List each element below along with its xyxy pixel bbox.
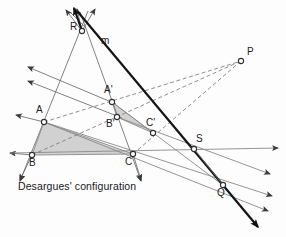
- ray-C-downward: [133, 154, 141, 180]
- point-label-A-prime: A': [104, 85, 113, 95]
- node-C-prime: [150, 130, 155, 135]
- point-label-C-prime: C': [146, 118, 155, 128]
- dashed-lines-to-P: [32, 61, 241, 155]
- node-P: [238, 58, 243, 63]
- node-A-prime: [109, 99, 114, 104]
- line-B-prime-C-prime-S: [117, 117, 270, 174]
- point-label-R: R: [70, 22, 77, 32]
- node-R: [79, 28, 84, 33]
- point-label-B-prime: B': [106, 119, 115, 129]
- dashed-C-C-prime-P: [133, 61, 241, 154]
- outer-triangle-ABC: [32, 122, 133, 155]
- point-label-Q: Q: [217, 188, 225, 198]
- dashed-B-B-prime-P: [32, 61, 241, 155]
- triangle-side-extensions: [10, 102, 278, 211]
- ray-A-to-left: [16, 115, 44, 122]
- node-A: [41, 119, 46, 124]
- figure-caption: Desargues' configuration: [18, 180, 136, 192]
- node-B-prime: [114, 114, 119, 119]
- point-label-P: P: [247, 47, 254, 57]
- node-S: [191, 146, 196, 151]
- point-label-S: S: [196, 134, 203, 144]
- point-label-B: B: [29, 158, 36, 168]
- dashed-A-A-prime-P: [44, 61, 241, 122]
- desargues-configuration-svg: [0, 0, 286, 237]
- line-m-label: m: [101, 36, 109, 46]
- perspective-rays-from-R: [20, 11, 141, 181]
- figure-canvas: R P A B C A' B' C' S Q m Desargues' conf…: [0, 0, 286, 237]
- point-label-A: A: [36, 105, 43, 115]
- point-label-C: C: [125, 157, 132, 167]
